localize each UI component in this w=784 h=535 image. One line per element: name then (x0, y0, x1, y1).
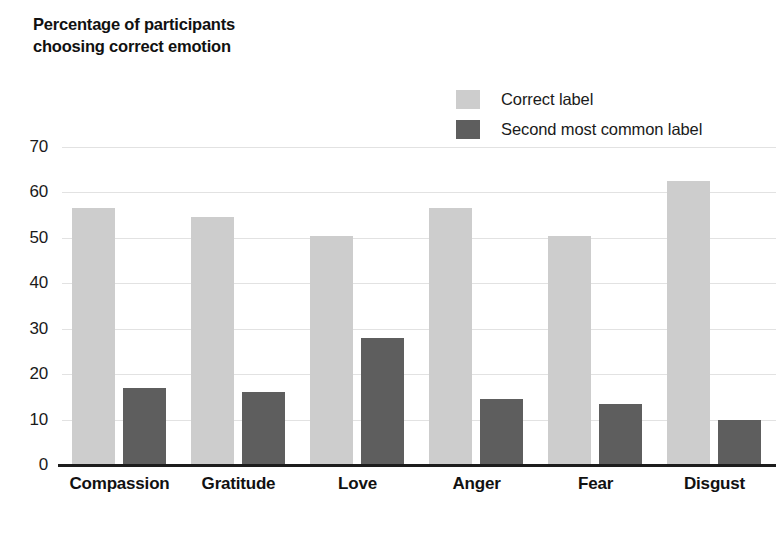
bar-love-second-most-common-label[interactable] (361, 338, 404, 465)
legend-swatch-second-most-common-label (456, 120, 480, 139)
y-axis-tick-60: 60 (0, 182, 48, 202)
bars-layer (62, 147, 776, 465)
y-axis-tick-10: 10 (0, 410, 48, 430)
bar-chart-figure: Percentage of participants choosing corr… (0, 0, 784, 535)
y-axis-tick-0: 0 (0, 455, 48, 475)
y-axis-tick-30: 30 (0, 319, 48, 339)
legend-item-label: Correct label (501, 90, 593, 109)
bar-fear-second-most-common-label[interactable] (599, 404, 642, 465)
chart-legend: Correct labelSecond most common label (456, 84, 702, 144)
y-axis-tick-50: 50 (0, 228, 48, 248)
x-axis-label-disgust: Disgust (684, 474, 745, 494)
bar-anger-correct-label[interactable] (429, 208, 472, 465)
y-axis-tick-70: 70 (0, 137, 48, 157)
bar-gratitude-second-most-common-label[interactable] (242, 392, 285, 465)
bar-compassion-correct-label[interactable] (72, 208, 115, 465)
bar-fear-correct-label[interactable] (548, 236, 591, 465)
bar-disgust-correct-label[interactable] (667, 181, 710, 465)
x-axis-label-anger: Anger (452, 474, 500, 494)
legend-item-1[interactable]: Second most common label (456, 114, 702, 144)
x-axis-label-compassion: Compassion (69, 474, 169, 494)
legend-item-0[interactable]: Correct label (456, 84, 702, 114)
legend-swatch-correct-label (456, 90, 480, 109)
legend-item-label: Second most common label (501, 120, 702, 139)
bar-disgust-second-most-common-label[interactable] (718, 420, 761, 465)
x-axis-label-gratitude: Gratitude (202, 474, 276, 494)
y-axis-tick-40: 40 (0, 273, 48, 293)
x-axis-line (58, 464, 776, 467)
bar-anger-second-most-common-label[interactable] (480, 399, 523, 465)
bar-compassion-second-most-common-label[interactable] (123, 388, 166, 465)
bar-gratitude-correct-label[interactable] (191, 217, 234, 465)
x-axis-label-love: Love (338, 474, 377, 494)
x-axis-label-fear: Fear (578, 474, 613, 494)
bar-love-correct-label[interactable] (310, 236, 353, 465)
chart-axis-title: Percentage of participants choosing corr… (33, 14, 263, 57)
y-axis-tick-20: 20 (0, 364, 48, 384)
